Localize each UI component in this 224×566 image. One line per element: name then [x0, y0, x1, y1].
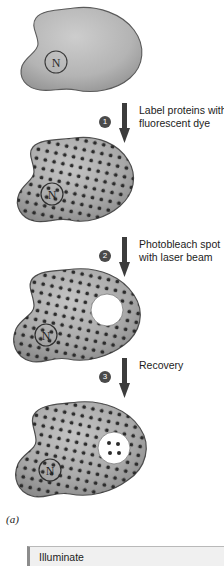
bottom-panel: Illuminate — [27, 546, 224, 566]
cell-membrane — [21, 7, 142, 91]
down-arrow-icon — [118, 358, 131, 399]
step-3-label: Recovery — [139, 359, 183, 372]
photobleached-spot — [98, 432, 130, 464]
nucleus-label: N — [42, 329, 51, 343]
nucleus-label: N — [52, 56, 61, 70]
nucleus-label: N — [46, 464, 55, 478]
step-3-badge: 3 — [99, 371, 111, 383]
cell-unlabeled: N — [14, 4, 149, 104]
cell-bleached: N — [8, 265, 150, 373]
step-2-badge: 2 — [99, 250, 111, 262]
frap-figure: N 1 Label proteins with fluorescent dye — [0, 0, 224, 566]
step-3: 3 Recovery — [99, 358, 183, 399]
fluorescent-protein-dots — [10, 398, 155, 510]
fluorescent-protein-dots — [8, 265, 150, 373]
cell-labeled: N — [12, 132, 142, 236]
nucleus-label: N — [48, 188, 57, 202]
panel-label-a: (a) — [6, 513, 19, 525]
bottom-panel-label: Illuminate — [39, 551, 84, 564]
step-2-label: Photobleach spot with laser beam — [139, 238, 220, 263]
step-1-badge: 1 — [99, 116, 111, 128]
step-1-label: Label proteins with fluorescent dye — [139, 104, 224, 129]
photobleached-spot — [91, 294, 123, 326]
cell-recovered: N — [10, 398, 155, 510]
